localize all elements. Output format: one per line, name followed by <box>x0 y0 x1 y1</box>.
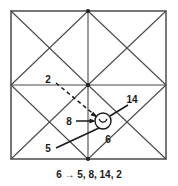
vertex-top-center <box>86 9 90 13</box>
circled-node[interactable] <box>95 113 111 129</box>
label-2: 2 <box>45 74 51 85</box>
label-8: 8 <box>66 116 72 127</box>
vertex-center <box>86 83 90 87</box>
geometry-diagram: 2 14 8 6 5 6 → 5, 8, 14, 2 <box>0 0 178 186</box>
label-6: 6 <box>105 134 111 145</box>
figure-root: 2 14 8 6 5 6 → 5, 8, 14, 2 <box>0 0 178 186</box>
vertex-bottom-center <box>86 157 90 161</box>
figure-caption: 6 → 5, 8, 14, 2 <box>56 169 122 180</box>
label-14: 14 <box>126 94 138 105</box>
label-5: 5 <box>45 143 51 154</box>
